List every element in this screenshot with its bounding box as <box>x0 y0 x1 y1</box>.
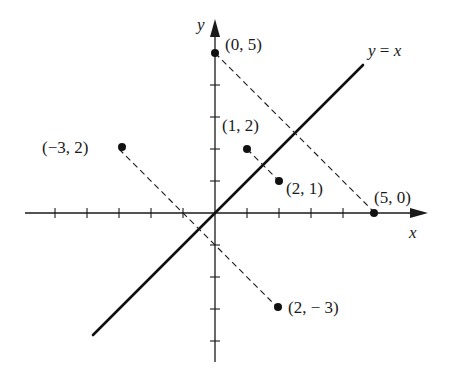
x-axis: x <box>25 208 428 242</box>
point-2-1: (2, 1) <box>275 177 323 198</box>
points: (0, 5) (5, 0) (1, 2) (2, 1) (−3, 2) (2, … <box>42 35 411 317</box>
x-axis-label: x <box>408 223 417 242</box>
point-0-5: (0, 5) <box>211 35 262 57</box>
line-label: y = x <box>366 41 402 60</box>
point-label: (1, 2) <box>222 116 259 135</box>
x-axis-arrow-icon <box>410 208 428 218</box>
point-label: (2, 1) <box>286 179 323 198</box>
coordinate-diagram: x y y = x (0, 5) <box>0 0 453 377</box>
point-neg3-2: (−3, 2) <box>42 138 126 157</box>
point-label: (0, 5) <box>225 35 262 54</box>
point-1-2: (1, 2) <box>222 116 259 153</box>
point-label: (5, 0) <box>374 188 411 207</box>
point-2-neg3: (2, − 3) <box>274 298 339 317</box>
point-label: (2, − 3) <box>288 298 339 317</box>
point-label: (−3, 2) <box>42 138 88 157</box>
y-axis-label: y <box>195 15 205 34</box>
y-axis: y <box>195 15 220 362</box>
y-axis-arrow-icon <box>210 19 220 37</box>
